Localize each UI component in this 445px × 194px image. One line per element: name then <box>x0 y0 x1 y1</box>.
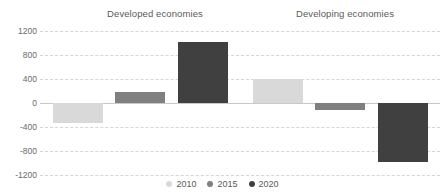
bar <box>315 103 365 110</box>
legend-label: 2020 <box>259 179 279 189</box>
legend-swatch-icon <box>207 181 213 187</box>
bar <box>115 92 165 103</box>
gridline <box>40 31 440 32</box>
group-title-developed: Developed economies <box>55 8 255 19</box>
bar <box>178 42 228 103</box>
bar <box>53 103 103 123</box>
gridline <box>40 79 440 80</box>
y-axis-tick-label: -800 <box>1 146 37 156</box>
gridline <box>40 175 440 176</box>
y-axis-tick-label: 0 <box>1 98 37 108</box>
bar <box>378 103 428 162</box>
legend-item[interactable]: 2010 <box>166 179 196 189</box>
bar-chart: Developed economies Developing economies… <box>0 0 445 194</box>
y-axis-tick-label: 1200 <box>1 26 37 36</box>
legend-swatch-icon <box>249 181 255 187</box>
legend-item[interactable]: 2015 <box>207 179 237 189</box>
bar <box>253 79 303 103</box>
legend-item[interactable]: 2020 <box>249 179 279 189</box>
gridline <box>40 55 440 56</box>
group-title-developing: Developing economies <box>250 8 440 19</box>
y-axis: 12008004000-400-800-1200 <box>0 31 37 175</box>
plot-area <box>40 31 440 175</box>
legend-label: 2010 <box>176 179 196 189</box>
y-axis-tick-label: -400 <box>1 122 37 132</box>
y-axis-tick-label: 800 <box>1 50 37 60</box>
legend-label: 2015 <box>217 179 237 189</box>
chart-legend: 201020152020 <box>0 177 445 191</box>
y-axis-tick-label: 400 <box>1 74 37 84</box>
legend-swatch-icon <box>166 181 172 187</box>
